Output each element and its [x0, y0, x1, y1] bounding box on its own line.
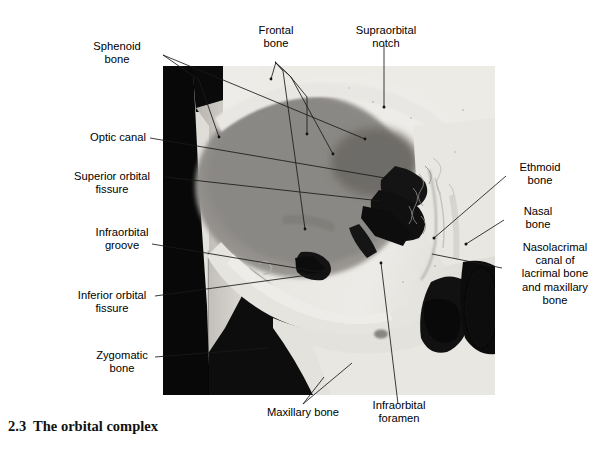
label-sphenoid-bone: Sphenoid bone: [72, 40, 162, 66]
label-zygomatic-bone: Zygomatic bone: [82, 349, 162, 375]
skull-photograph: [163, 66, 495, 395]
figure-caption: 2.3 The orbital complex: [8, 418, 158, 435]
label-nasal-bone: Nasal bone: [510, 205, 566, 231]
label-infraorbital-foramen: Infraorbital foramen: [358, 399, 440, 425]
label-superior-orbital-fissure: Superior orbital fissure: [62, 170, 162, 196]
label-frontal-bone: Frontal bone: [236, 24, 316, 50]
label-optic-canal: Optic canal: [50, 131, 146, 144]
label-supraorbital-notch: Supraorbital notch: [340, 24, 432, 50]
label-maxillary-bone: Maxillary bone: [238, 406, 368, 419]
figure-orbital-complex: Sphenoid bone Frontal bone Supraorbital …: [0, 0, 608, 449]
label-inferior-orbital-fissure: Inferior orbital fissure: [62, 289, 162, 315]
label-infraorbital-groove: Infraorbital groove: [82, 226, 162, 252]
label-ethmoid-bone: Ethmoid bone: [510, 161, 570, 187]
label-nasolacrimal-canal: Nasolacrimal canal of lacrimal bone and …: [506, 241, 604, 307]
skull-photo-graphic: [163, 66, 495, 395]
